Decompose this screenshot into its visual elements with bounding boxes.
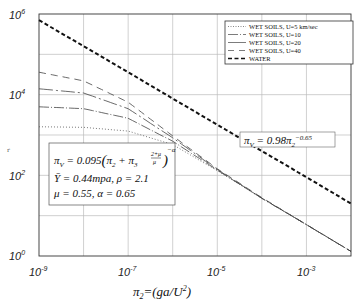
y-axis-mark: r xyxy=(7,146,10,153)
water-fit-equation: πV = 0.98π2−0.65 xyxy=(240,132,335,149)
legend-label-u20: WET SOILS, U=20 xyxy=(249,39,301,46)
x-tick-minus7: 10-7 xyxy=(118,265,138,278)
model-equation-box: πV = 0.095(π2 + π3 2+μ μ ) −α Ȳ = 0.44mp… xyxy=(49,143,176,205)
x-tick-labels: 10-9 10-7 10-5 10-3 xyxy=(29,265,316,278)
legend-label-water: WATER xyxy=(249,55,271,62)
y-tick-0: 100 xyxy=(9,249,25,262)
x-tick-minus5: 10-5 xyxy=(207,265,226,278)
x-tick-minus3: 10-3 xyxy=(297,265,316,278)
svg-text:−α: −α xyxy=(167,146,176,154)
svg-text:Ȳ = 0.44mpa, ρ = 2.1: Ȳ = 0.44mpa, ρ = 2.1 xyxy=(54,172,149,184)
x-tick-minus9: 10-9 xyxy=(29,265,48,278)
legend: WET SOILS, U=5 km/sec WET SOILS, U=10 WE… xyxy=(225,21,353,64)
legend-label-u5: WET SOILS, U=5 km/sec xyxy=(249,23,318,30)
x-axis-label: π2=(ga/U2) xyxy=(133,284,191,301)
legend-label-u10: WET SOILS, U=10 xyxy=(249,31,301,38)
legend-label-u40: WET SOILS, U=40 xyxy=(249,47,301,54)
svg-text:μ: μ xyxy=(153,159,156,165)
y-tick-6: 106 xyxy=(9,8,25,21)
svg-text:): ) xyxy=(162,152,168,169)
y-tick-labels: 100 102 104 106 xyxy=(9,8,25,262)
svg-text:μ = 0.55, α = 0.65: μ = 0.55, α = 0.65 xyxy=(53,187,136,199)
svg-text:2+μ: 2+μ xyxy=(151,151,161,157)
chart: 100 102 104 106 r 10-9 10-7 10-5 10-3 π2… xyxy=(0,0,358,301)
y-tick-4: 104 xyxy=(9,88,25,101)
y-tick-2: 102 xyxy=(9,169,25,182)
